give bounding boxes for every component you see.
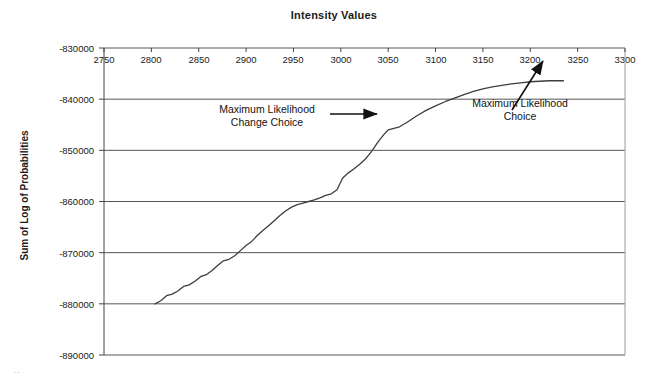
annotation-max-likelihood-change-choice: Maximum Likelihood Change Choice bbox=[192, 103, 342, 129]
y-axis-ticks bbox=[99, 48, 104, 355]
scan-artifact-mark: .. bbox=[14, 366, 20, 375]
x-axis-ticks bbox=[104, 48, 625, 52]
chart-figure: Intensity Values Sum of Log of Probabili… bbox=[0, 0, 668, 384]
gridlines bbox=[104, 48, 625, 355]
plot-area bbox=[0, 0, 668, 384]
annotation-max-likelihood-choice: Maximum Likelihood Choice bbox=[440, 97, 600, 123]
